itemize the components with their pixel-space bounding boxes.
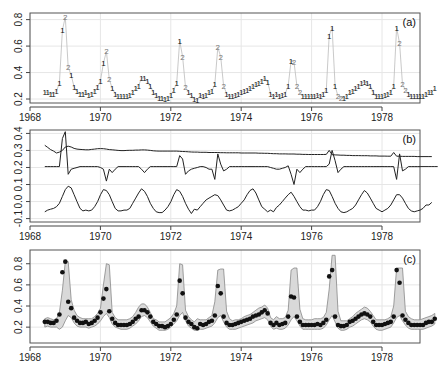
y-tick-label: 0.8	[13, 256, 24, 270]
observed-point	[213, 313, 218, 318]
observed-point	[292, 295, 297, 300]
y-tick-label: 0.4	[13, 299, 24, 313]
observed-point	[391, 314, 396, 319]
regime-label: 1	[60, 26, 65, 35]
observed-point	[54, 319, 59, 324]
regime-label: 1	[69, 71, 74, 80]
regime-label: 1	[391, 82, 396, 91]
regime-label: 1	[175, 79, 180, 88]
observed-point	[169, 322, 174, 327]
observed-point	[148, 314, 153, 319]
x-tick-label: 1970	[89, 352, 112, 363]
regime-label: 1	[327, 32, 332, 41]
regime-label: 1	[98, 77, 103, 86]
observed-point	[110, 316, 115, 321]
observed-point	[177, 278, 182, 283]
panel-c: 0.20.40.60.8196819701972197419761978(c)	[13, 250, 437, 363]
regime-label: 1	[136, 82, 141, 91]
observed-point	[145, 310, 150, 315]
observed-point	[57, 312, 62, 317]
regime-label: 2	[216, 43, 221, 52]
panel-label: (a)	[403, 16, 416, 28]
observed-point	[210, 319, 215, 324]
y-tick-label: 0.4	[13, 65, 24, 79]
x-tick-label: 1968	[19, 352, 42, 363]
panel-label: (b)	[403, 133, 416, 145]
observed-point	[98, 310, 103, 315]
regime-label: 1	[283, 90, 288, 99]
x-tick-label: 1974	[230, 352, 253, 363]
observed-point	[218, 291, 223, 296]
observed-point	[215, 284, 220, 289]
x-tick-label: 1976	[300, 352, 323, 363]
regime-label: 1	[433, 84, 438, 93]
regime-label: 2	[180, 53, 185, 62]
observed-point	[295, 314, 300, 319]
panel-a: 0.20.40.60.8196819701972197419761978(a)1…	[13, 12, 438, 123]
panel-label: (c)	[403, 253, 416, 265]
observed-point	[368, 314, 373, 319]
y-tick-label: 0.2	[13, 160, 24, 174]
observed-point	[221, 314, 226, 319]
observed-point	[101, 296, 106, 301]
regime-label: 2	[104, 47, 109, 56]
observed-point	[333, 314, 338, 319]
observed-point	[286, 314, 291, 319]
x-tick-label: 1970	[89, 231, 112, 242]
regime-label: 1	[57, 79, 62, 88]
y-tick-label: 0.3	[13, 143, 24, 157]
observed-point	[95, 315, 100, 320]
y-tick-label: 0.6	[13, 277, 24, 291]
observed-point	[104, 287, 109, 292]
observed-point	[324, 317, 329, 322]
observed-point	[60, 270, 65, 275]
observed-point	[330, 268, 335, 273]
regime-label: 1	[213, 80, 218, 89]
observed-point	[327, 274, 332, 279]
panel-b: -0.10.00.10.20.30.4196819701972197419761…	[13, 126, 438, 242]
observed-point	[397, 280, 402, 285]
regime-label: 2	[292, 58, 297, 67]
observed-point	[180, 291, 185, 296]
seasonal-line	[45, 186, 432, 213]
observed-point	[107, 309, 112, 314]
observed-point	[400, 313, 405, 318]
x-tick-label: 1976	[300, 112, 323, 123]
regime-label: 2	[397, 39, 402, 48]
observed-point	[394, 268, 399, 273]
regime-label: 1	[265, 78, 270, 87]
prediction-band	[45, 255, 435, 330]
observed-point	[66, 299, 71, 304]
regime-label: 1	[177, 37, 182, 46]
regime-label: 1	[324, 86, 329, 95]
observed-point	[388, 320, 393, 325]
regime-label: 1	[286, 82, 291, 91]
observed-point	[183, 315, 188, 320]
observed-point	[265, 311, 270, 316]
observed-point	[283, 321, 288, 326]
observed-point	[432, 316, 437, 321]
y-tick-label: 0.0	[13, 194, 24, 208]
y-tick-label: 0.8	[13, 12, 24, 26]
x-tick-label: 1968	[19, 112, 42, 123]
regime-label: 2	[107, 75, 112, 84]
regime-label: 1	[394, 24, 399, 33]
x-tick-label: 1970	[89, 112, 112, 123]
regime-label: 1	[54, 87, 59, 96]
y-tick-label: 0.6	[13, 39, 24, 53]
figure: 0.20.40.60.8196819701972197419761978(a)1…	[0, 0, 444, 365]
observed-point	[69, 306, 74, 311]
x-tick-label: 1976	[300, 231, 323, 242]
regime-label: 1	[101, 59, 106, 68]
y-tick-label: 0.2	[13, 320, 24, 334]
x-tick-label: 1968	[19, 231, 42, 242]
observed-point	[171, 317, 176, 322]
regime-label: 2	[218, 53, 223, 62]
x-tick-label: 1972	[160, 112, 183, 123]
regime-label: 1	[330, 24, 335, 33]
observed-point	[174, 312, 179, 317]
y-tick-label: -0.1	[13, 210, 24, 228]
observed-point	[195, 326, 200, 331]
regime-label: 1	[333, 82, 338, 91]
y-tick-label: 0.1	[13, 177, 24, 191]
